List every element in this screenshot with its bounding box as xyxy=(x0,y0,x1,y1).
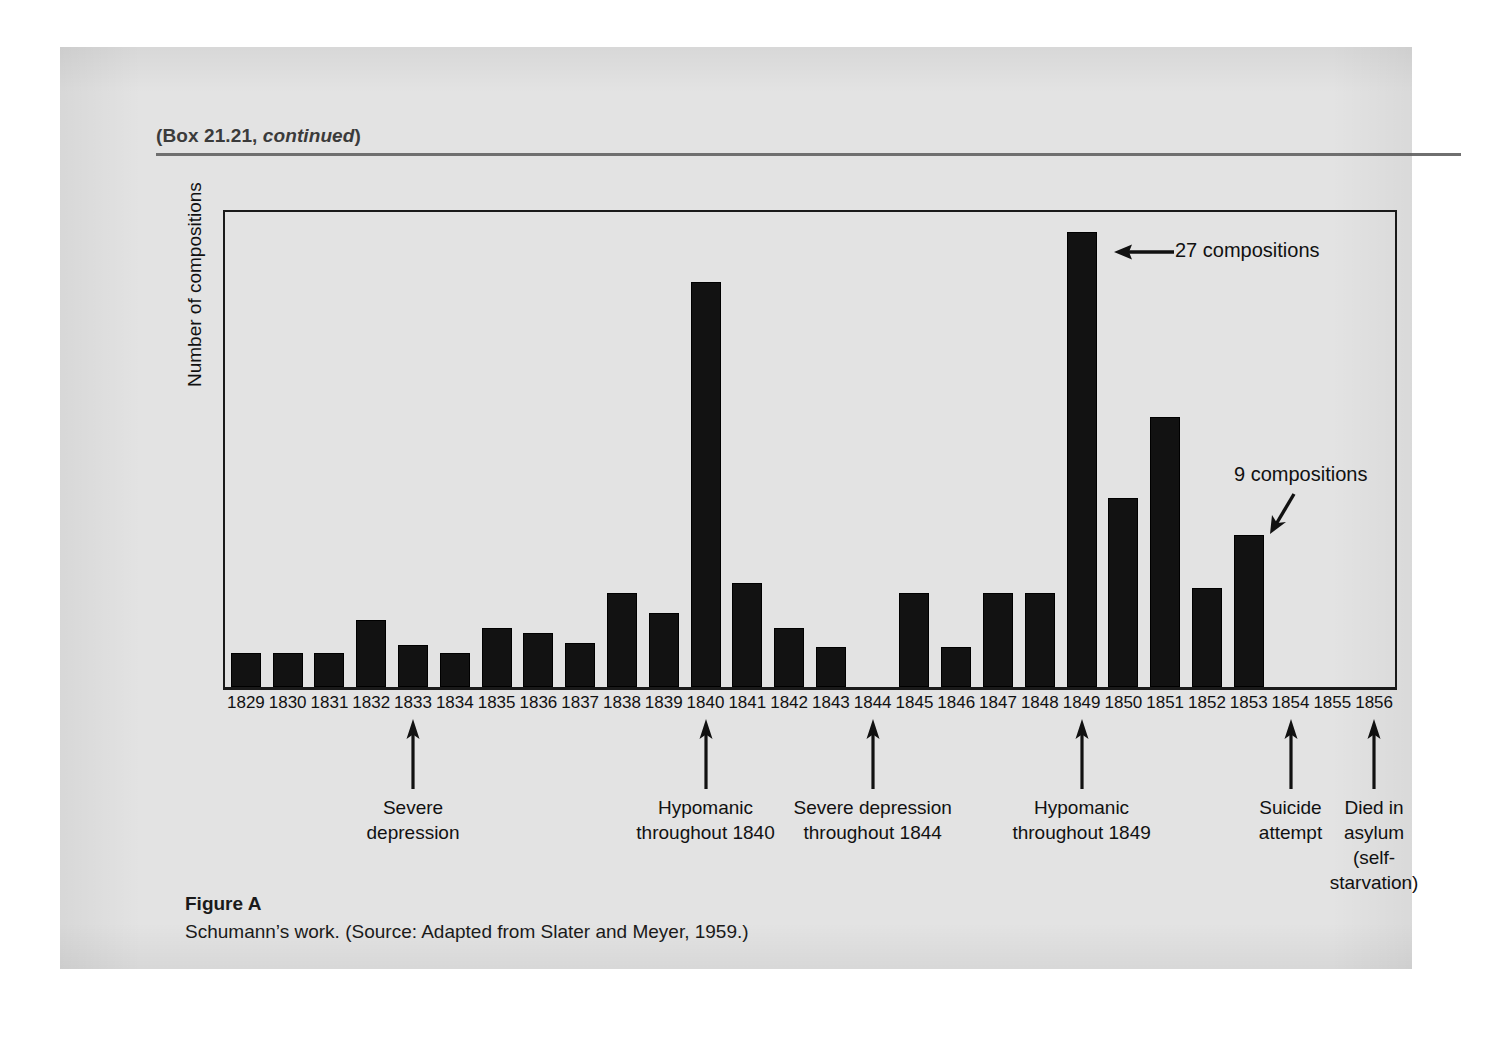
x-axis-tick-labels: 1829183018311832183318341835183618371838… xyxy=(225,693,1395,719)
annotation-arrow-1856 xyxy=(1364,719,1384,789)
bar-1850 xyxy=(1108,498,1138,687)
annotation-label-hypomanic-1849: Hypomanic throughout 1849 xyxy=(977,795,1187,845)
bar-1833 xyxy=(398,645,428,687)
annotation-label-severe-depression-1833: Severe depression xyxy=(323,795,503,845)
annotation-label-severe-depression-1844: Severe depression throughout 1844 xyxy=(763,795,983,845)
callout-9-compositions: 9 compositions xyxy=(1234,463,1367,486)
bar-1846 xyxy=(941,647,971,687)
box-header: (Box 21.21, continued) xyxy=(156,125,1460,156)
bar-1845 xyxy=(899,593,929,687)
annotation-arrow-1844 xyxy=(863,719,883,789)
callout-27-arrow-icon xyxy=(1112,239,1176,265)
callout-9-arrow-icon xyxy=(1262,490,1304,536)
bar-1837 xyxy=(565,643,595,687)
box-header-title: (Box 21.21, continued) xyxy=(156,125,1460,147)
bar-1851 xyxy=(1150,417,1180,687)
chart-plot-area xyxy=(225,212,1395,690)
bar-1829 xyxy=(231,653,261,687)
bar-1852 xyxy=(1192,588,1222,687)
bar-1843 xyxy=(816,647,846,687)
x-tick-1856: 1856 xyxy=(1349,693,1399,713)
box-header-suffix: ) xyxy=(354,125,360,146)
bar-1840 xyxy=(691,282,721,687)
annotation-arrow-1833 xyxy=(403,719,423,789)
bar-1836 xyxy=(523,633,553,687)
x-axis-line xyxy=(225,687,1395,690)
figure-caption: Figure A Schumann’s work. (Source: Adapt… xyxy=(185,893,1085,943)
bar-1834 xyxy=(440,653,470,687)
annotation-arrow-1840 xyxy=(696,719,716,789)
page-root: (Box 21.21, continued) Number of composi… xyxy=(0,0,1494,1047)
bar-1830 xyxy=(273,653,303,687)
bar-1847 xyxy=(983,593,1013,687)
figure-caption-text: Schumann’s work. (Source: Adapted from S… xyxy=(185,921,1085,943)
bar-1839 xyxy=(649,613,679,687)
bar-1832 xyxy=(356,620,386,687)
callout-27-compositions: 27 compositions xyxy=(1175,239,1320,262)
bar-1848 xyxy=(1025,593,1055,687)
paper-sheet: (Box 21.21, continued) Number of composi… xyxy=(60,47,1412,969)
bar-1831 xyxy=(314,653,344,687)
box-header-prefix: (Box 21.21, xyxy=(156,125,263,146)
annotation-arrow-1849 xyxy=(1072,719,1092,789)
figure-caption-title: Figure A xyxy=(185,893,1085,915)
y-axis-label: Number of compositions xyxy=(184,147,206,387)
annotation-label-died-in-asylum-1856: Died in asylum (self- starvation) xyxy=(1315,795,1433,895)
box-header-divider xyxy=(156,153,1461,156)
box-header-continued: continued xyxy=(263,125,355,146)
annotation-arrow-1854 xyxy=(1281,719,1301,789)
bar-1853 xyxy=(1234,535,1264,687)
bar-1835 xyxy=(482,628,512,687)
bar-1841 xyxy=(732,583,762,688)
bar-1842 xyxy=(774,628,804,687)
bar-1838 xyxy=(607,593,637,687)
bar-1849 xyxy=(1067,232,1097,687)
